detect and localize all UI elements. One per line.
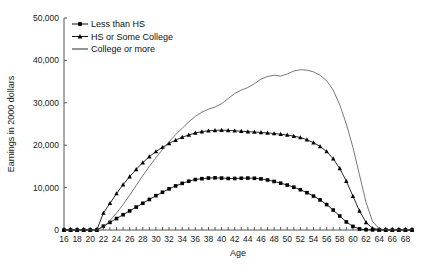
- data-point-marker: [351, 225, 355, 229]
- y-axis-label: Earnings in 2000 dollars: [6, 75, 16, 172]
- data-point-marker: [364, 220, 368, 224]
- x-axis-tick-label: 62: [361, 234, 371, 244]
- y-axis-tick-label: 40,000: [33, 55, 59, 65]
- x-axis-tick-label: 26: [125, 234, 135, 244]
- x-axis-tick-label: 44: [243, 234, 253, 244]
- data-point-marker: [187, 179, 191, 183]
- legend-marker-square: [78, 22, 82, 26]
- data-point-marker: [167, 187, 171, 191]
- data-point-marker: [174, 184, 178, 188]
- data-point-marker: [272, 180, 276, 184]
- data-point-marker: [220, 176, 224, 180]
- x-axis-tick-label: 22: [99, 234, 109, 244]
- x-axis-tick-label: 68: [401, 234, 411, 244]
- data-point-marker: [246, 176, 250, 180]
- x-axis-tick-label: 20: [86, 234, 96, 244]
- x-axis-label: Age: [230, 248, 246, 258]
- x-axis-tick-label: 28: [138, 234, 148, 244]
- x-axis-tick-label: 18: [72, 234, 82, 244]
- data-point-marker: [318, 144, 322, 148]
- data-point-marker: [285, 183, 289, 187]
- series-line-hs-or-some-college: [64, 130, 412, 230]
- data-point-marker: [121, 213, 125, 217]
- x-axis-tick-label: 66: [388, 234, 398, 244]
- x-axis-tick-label: 16: [59, 234, 69, 244]
- data-point-marker: [207, 176, 211, 180]
- data-point-marker: [344, 179, 348, 183]
- data-point-marker: [154, 194, 158, 198]
- y-axis-tick-label: 20,000: [33, 140, 59, 150]
- legend-label: HS or Some College: [91, 32, 173, 42]
- data-point-marker: [357, 209, 361, 213]
- x-axis-tick-label: 30: [151, 234, 161, 244]
- data-point-marker: [147, 154, 151, 158]
- series-line-less-than-hs: [64, 178, 412, 230]
- data-point-marker: [213, 176, 217, 180]
- y-axis-tick-label: 10,000: [33, 183, 59, 193]
- data-point-marker: [266, 178, 270, 182]
- data-point-marker: [161, 190, 165, 194]
- data-point-marker: [226, 177, 230, 181]
- data-point-marker: [279, 181, 283, 185]
- earnings-by-age-chart: 010,00020,00030,00040,00050,000161820222…: [0, 0, 422, 275]
- data-point-marker: [134, 205, 138, 209]
- y-axis-tick-label: 30,000: [33, 98, 59, 108]
- x-axis-tick-label: 52: [296, 234, 306, 244]
- data-point-marker: [364, 228, 368, 232]
- data-point-marker: [239, 176, 243, 180]
- x-axis-tick-label: 60: [348, 234, 358, 244]
- x-axis-tick-label: 58: [335, 234, 345, 244]
- data-point-marker: [312, 194, 316, 198]
- legend-label: Less than HS: [91, 19, 145, 29]
- x-axis-tick-label: 48: [269, 234, 279, 244]
- data-point-marker: [160, 145, 164, 149]
- data-point-marker: [325, 203, 329, 207]
- y-axis-tick-label: 50,000: [33, 13, 59, 23]
- data-point-marker: [305, 191, 309, 195]
- x-axis-tick-label: 32: [164, 234, 174, 244]
- data-point-marker: [338, 214, 342, 218]
- data-point-marker: [128, 209, 132, 213]
- x-axis-tick-label: 50: [283, 234, 293, 244]
- data-point-marker: [141, 201, 145, 205]
- x-axis-tick-label: 46: [256, 234, 266, 244]
- x-axis-tick-label: 56: [322, 234, 332, 244]
- data-point-marker: [351, 194, 355, 198]
- x-axis-tick-label: 24: [112, 234, 122, 244]
- data-point-marker: [154, 149, 158, 153]
- x-axis-tick-label: 54: [309, 234, 319, 244]
- data-point-marker: [180, 182, 184, 186]
- data-point-marker: [200, 177, 204, 181]
- data-point-marker: [292, 185, 296, 189]
- x-axis-tick-label: 40: [217, 234, 227, 244]
- data-point-marker: [345, 220, 349, 224]
- x-axis-tick-label: 38: [204, 234, 214, 244]
- data-point-marker: [318, 198, 322, 202]
- x-axis-tick-label: 34: [177, 234, 187, 244]
- data-point-marker: [233, 177, 237, 181]
- series-line-college-or-more: [64, 70, 412, 230]
- data-point-marker: [331, 208, 335, 212]
- data-point-marker: [259, 177, 263, 181]
- data-point-marker: [115, 217, 119, 221]
- data-point-marker: [253, 176, 257, 180]
- data-point-marker: [358, 227, 362, 231]
- x-axis-tick-label: 36: [191, 234, 201, 244]
- chart-canvas: 010,00020,00030,00040,00050,000161820222…: [0, 0, 422, 275]
- x-axis-tick-label: 64: [374, 234, 384, 244]
- x-axis-tick-label: 42: [230, 234, 240, 244]
- legend-label: College or more: [91, 44, 155, 54]
- data-point-marker: [299, 188, 303, 192]
- data-point-marker: [148, 198, 152, 202]
- data-point-marker: [324, 149, 328, 153]
- data-point-marker: [194, 178, 198, 182]
